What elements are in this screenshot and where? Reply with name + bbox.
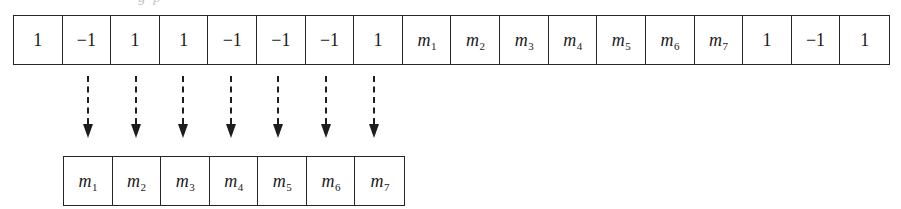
arrow-head bbox=[369, 124, 379, 138]
array-cell: 1 bbox=[743, 16, 792, 64]
array-cell: −1 bbox=[792, 16, 841, 64]
extraction-arrow-icon bbox=[176, 64, 190, 142]
cell-value: −1 bbox=[320, 31, 339, 49]
cell-symbol-base: m bbox=[612, 30, 625, 50]
extraction-arrow-icon bbox=[129, 64, 143, 142]
cell-symbol-subscript: 2 bbox=[141, 181, 147, 193]
cell-symbol-base: m bbox=[321, 171, 334, 191]
extraction-arrow-icon bbox=[319, 64, 333, 142]
arrow-shaft bbox=[87, 76, 89, 124]
cell-symbol-base: m bbox=[563, 30, 576, 50]
cell-symbol-base: m bbox=[224, 171, 237, 191]
cropped-text-above-figure: g p bbox=[0, 0, 901, 12]
source-sequence-array: 1−111−1−1−11m1m2m3m4m5m6m71−11 bbox=[13, 15, 890, 65]
array-cell: m7 bbox=[695, 16, 744, 64]
arrow-shaft bbox=[277, 76, 279, 124]
array-cell: m5 bbox=[258, 157, 307, 205]
arrow-head bbox=[131, 124, 141, 138]
cell-symbol-subscript: 1 bbox=[92, 181, 98, 193]
cell-symbol-subscript: 6 bbox=[674, 40, 680, 52]
cell-symbol-base: m bbox=[515, 30, 528, 50]
arrow-head bbox=[321, 124, 331, 138]
array-cell: m1 bbox=[403, 16, 452, 64]
arrow-head bbox=[83, 124, 93, 138]
cell-value: 1 bbox=[131, 31, 140, 49]
cell-symbol-base: m bbox=[127, 171, 140, 191]
cell-value: 1 bbox=[33, 31, 42, 49]
cell-symbol-base: m bbox=[709, 30, 722, 50]
array-cell: −1 bbox=[306, 16, 355, 64]
array-cell: m5 bbox=[597, 16, 646, 64]
array-cell: m1 bbox=[64, 157, 113, 205]
array-cell: m4 bbox=[549, 16, 598, 64]
cell-symbol-subscript: 2 bbox=[480, 40, 486, 52]
array-cell: 1 bbox=[14, 16, 63, 64]
cell-symbol-base: m bbox=[176, 171, 189, 191]
cell-symbol-subscript: 5 bbox=[286, 181, 292, 193]
cell-symbol-base: m bbox=[371, 171, 384, 191]
array-cell: −1 bbox=[208, 16, 257, 64]
arrow-head bbox=[178, 124, 188, 138]
cell-symbol-base: m bbox=[273, 171, 286, 191]
array-cell: −1 bbox=[257, 16, 306, 64]
array-cell: m2 bbox=[113, 157, 162, 205]
extracted-message-array: m1m2m3m4m5m6m7 bbox=[63, 156, 405, 206]
cell-value: 1 bbox=[762, 31, 771, 49]
cell-symbol-subscript: 7 bbox=[723, 40, 729, 52]
extraction-arrow-layer bbox=[0, 64, 901, 156]
cell-symbol-base: m bbox=[79, 171, 92, 191]
arrow-shaft bbox=[230, 76, 232, 124]
array-cell: 1 bbox=[840, 16, 889, 64]
array-cell: m4 bbox=[210, 157, 259, 205]
cell-symbol-subscript: 7 bbox=[384, 181, 390, 193]
extraction-arrow-icon bbox=[367, 64, 381, 142]
array-cell: m3 bbox=[500, 16, 549, 64]
array-cell: m7 bbox=[355, 157, 404, 205]
cell-symbol-subscript: 6 bbox=[335, 181, 341, 193]
arrow-shaft bbox=[373, 76, 375, 124]
cell-value: 1 bbox=[374, 31, 383, 49]
cell-value: −1 bbox=[806, 31, 825, 49]
array-cell: m6 bbox=[307, 157, 356, 205]
cell-symbol-subscript: 5 bbox=[625, 40, 631, 52]
array-cell: m2 bbox=[451, 16, 500, 64]
extraction-arrow-icon bbox=[81, 64, 95, 142]
cell-symbol-base: m bbox=[417, 30, 430, 50]
cell-symbol-subscript: 1 bbox=[431, 40, 437, 52]
array-cell: m6 bbox=[646, 16, 695, 64]
cell-symbol-subscript: 4 bbox=[577, 40, 583, 52]
arrow-shaft bbox=[325, 76, 327, 124]
array-cell: m3 bbox=[161, 157, 210, 205]
cell-value: −1 bbox=[77, 31, 96, 49]
arrow-shaft bbox=[182, 76, 184, 124]
arrow-shaft bbox=[135, 76, 137, 124]
cell-symbol-subscript: 3 bbox=[528, 40, 534, 52]
cell-symbol-base: m bbox=[660, 30, 673, 50]
cell-symbol-subscript: 3 bbox=[189, 181, 195, 193]
array-cell: −1 bbox=[63, 16, 112, 64]
cell-symbol-base: m bbox=[466, 30, 479, 50]
arrow-head bbox=[226, 124, 236, 138]
cell-value: 1 bbox=[860, 31, 869, 49]
extraction-arrow-icon bbox=[271, 64, 285, 142]
cell-symbol-subscript: 4 bbox=[238, 181, 244, 193]
cell-value: −1 bbox=[271, 31, 290, 49]
array-cell: 1 bbox=[160, 16, 209, 64]
array-cell: 1 bbox=[111, 16, 160, 64]
extraction-arrow-icon bbox=[224, 64, 238, 142]
array-cell: 1 bbox=[354, 16, 403, 64]
cell-value: −1 bbox=[223, 31, 242, 49]
cell-value: 1 bbox=[179, 31, 188, 49]
arrow-head bbox=[273, 124, 283, 138]
